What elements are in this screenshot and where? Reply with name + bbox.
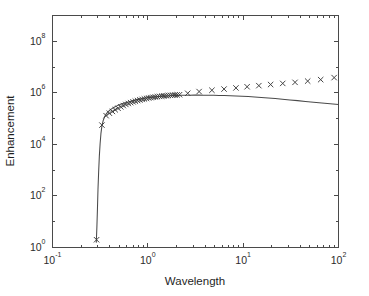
log-log-scatter-plot: 10-1100101102 100102104106108 Wavelength… bbox=[0, 0, 369, 296]
y-axis-label: Enhancement bbox=[4, 95, 16, 167]
figure-panel: 10-1100101102 100102104106108 Wavelength… bbox=[0, 0, 369, 296]
x-axis-label: Wavelength bbox=[165, 275, 225, 287]
